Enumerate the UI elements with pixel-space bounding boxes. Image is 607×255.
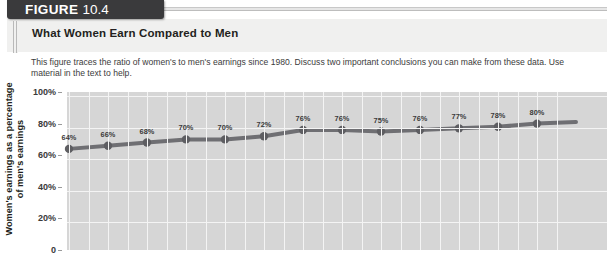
y-axis-tick-labels: 020%40%60%80%100% bbox=[28, 88, 62, 250]
vertical-gridline bbox=[167, 92, 168, 250]
vertical-gridline bbox=[89, 92, 90, 250]
vertical-gridline bbox=[206, 92, 207, 250]
y-axis-tick-mark bbox=[58, 250, 62, 251]
title-accent-bar bbox=[13, 21, 18, 53]
vertical-gridline bbox=[518, 92, 519, 250]
figure-title: What Women Earn Compared to Men bbox=[32, 27, 238, 39]
vertical-gridline bbox=[401, 92, 402, 250]
data-point-label: 72% bbox=[257, 120, 272, 129]
data-point-label: 77% bbox=[452, 112, 467, 121]
y-axis-tick-label: 40% bbox=[38, 182, 56, 192]
plot-area: 64%66%68%70%70%72%76%76%75%76%77%78%80% bbox=[67, 92, 607, 250]
vertical-gridline bbox=[440, 92, 441, 250]
vertical-gridline bbox=[69, 92, 70, 250]
data-point-label: 70% bbox=[218, 123, 233, 132]
horizontal-gridline bbox=[67, 222, 607, 223]
data-point-label: 66% bbox=[101, 130, 116, 139]
data-point-label: 75% bbox=[374, 116, 389, 125]
vertical-gridline bbox=[225, 92, 226, 250]
data-point-label: 80% bbox=[530, 108, 545, 117]
y-axis-tick-label: 80% bbox=[38, 119, 56, 129]
chart-region: Women's earnings as a percentage of men'… bbox=[0, 88, 607, 250]
data-point-label: 68% bbox=[140, 127, 155, 136]
y-axis-tick-label: 60% bbox=[38, 150, 56, 160]
y-axis-tick-mark bbox=[58, 218, 62, 219]
vertical-gridline bbox=[108, 92, 109, 250]
data-point-label: 64% bbox=[62, 133, 77, 142]
y-axis-title: Women's earnings as a percentage of men'… bbox=[4, 74, 26, 244]
vertical-gridline bbox=[128, 92, 129, 250]
vertical-gridline bbox=[479, 92, 480, 250]
y-axis-tick-mark bbox=[58, 124, 62, 125]
data-point-label: 78% bbox=[491, 111, 506, 120]
data-point-label: 76% bbox=[335, 114, 350, 123]
vertical-gridline bbox=[284, 92, 285, 250]
figure-number: 10.4 bbox=[82, 2, 108, 17]
banner-rule bbox=[160, 7, 607, 11]
vertical-gridline bbox=[362, 92, 363, 250]
y-axis-tick-label: 20% bbox=[38, 213, 56, 223]
y-axis-tick-label: 100% bbox=[33, 87, 56, 97]
horizontal-gridline bbox=[67, 191, 607, 192]
figure-word: FIGURE bbox=[25, 2, 78, 17]
horizontal-gridline bbox=[67, 96, 607, 97]
vertical-gridline bbox=[557, 92, 558, 250]
vertical-gridline bbox=[147, 92, 148, 250]
figure-banner: FIGURE 10.4 bbox=[7, 0, 164, 19]
figure-description: This figure traces the ratio of women's … bbox=[31, 57, 596, 80]
horizontal-gridline bbox=[67, 159, 607, 160]
vertical-gridline bbox=[323, 92, 324, 250]
data-point-label: 70% bbox=[179, 123, 194, 132]
data-point-label: 76% bbox=[296, 114, 311, 123]
vertical-gridline bbox=[186, 92, 187, 250]
y-axis-tick-mark bbox=[58, 92, 62, 93]
vertical-gridline bbox=[245, 92, 246, 250]
y-axis-tick-mark bbox=[58, 155, 62, 156]
vertical-gridline bbox=[264, 92, 265, 250]
data-point-label: 76% bbox=[413, 114, 428, 123]
y-axis-tick-mark bbox=[58, 187, 62, 188]
y-axis-tick-label: 0 bbox=[51, 245, 56, 255]
